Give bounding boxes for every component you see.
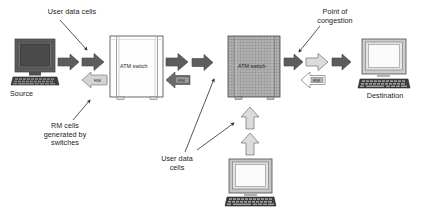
- data-arrow-source-to-switch1-a: [58, 54, 79, 70]
- label-destination: Destination: [352, 92, 418, 101]
- label-rm-cells-generated-by-switches: RM cells generated by switches: [18, 122, 112, 148]
- leader-line-user-data-bottom-b: [197, 123, 234, 150]
- label-user-data-cells-bottom: User data cells: [144, 155, 210, 172]
- rm-tag-switch2-to-switch1: RM: [178, 78, 185, 83]
- diagram-canvas: User data cells RM cells generated by sw…: [0, 0, 423, 220]
- data-arrow-source-to-switch1-b: [82, 54, 104, 71]
- label-source: Source: [10, 90, 68, 99]
- rm-tag-dest-to-switch2: RM: [313, 78, 320, 83]
- data-arrow-switch2-to-dest-c: [332, 54, 351, 70]
- diagram-vector-layer: [0, 0, 423, 220]
- atm-switch-1-label: ATM switch: [120, 63, 147, 69]
- data-arrow-switch2-to-dest-a: [284, 54, 303, 70]
- second-source-computer: [225, 159, 276, 206]
- leader-line-point-of-congestion: [299, 26, 320, 52]
- data-arrow-switch2-to-dest-b: [306, 54, 328, 71]
- leader-line-user-data-top: [60, 20, 87, 50]
- label-point-of-congestion: Point of congestion: [297, 8, 373, 25]
- atm-switch-2-label: ATM switch: [238, 63, 265, 69]
- rm-tag-switch1-to-source: RM: [94, 78, 101, 83]
- data-arrow-switch1-to-switch2-a: [166, 54, 188, 71]
- data-arrow-pc2-to-switch2-a: [241, 133, 259, 155]
- data-arrow-pc2-to-switch2-b: [241, 107, 259, 129]
- source-computer: [11, 39, 59, 85]
- data-arrow-switch1-to-switch2-b: [192, 55, 213, 71]
- destination-computer: [358, 39, 410, 88]
- label-user-data-cells-top: User data cells: [32, 8, 112, 17]
- leader-line-rm-cells: [73, 100, 90, 120]
